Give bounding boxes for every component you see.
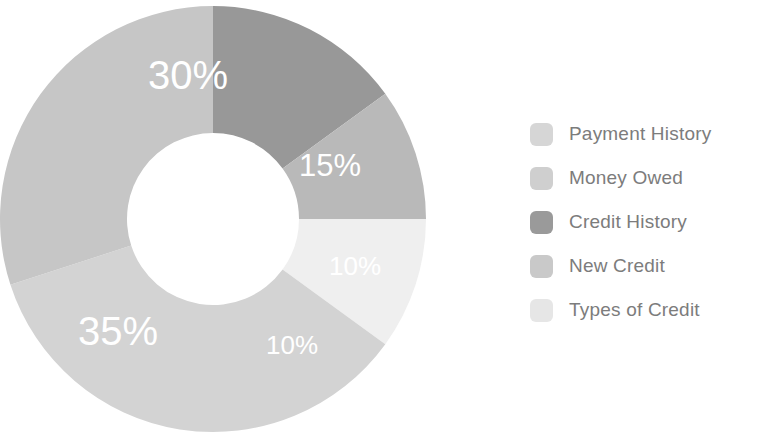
legend-item-label: Payment History xyxy=(569,123,711,145)
slice-percent-label: 10% xyxy=(266,330,318,360)
chart-legend: Payment HistoryMoney OwedCredit HistoryN… xyxy=(530,112,766,332)
legend-item-label: New Credit xyxy=(569,255,665,277)
legend-item-label: Types of Credit xyxy=(569,299,700,321)
legend-item[interactable]: Money Owed xyxy=(530,156,766,200)
legend-item[interactable]: New Credit xyxy=(530,244,766,288)
legend-item[interactable]: Types of Credit xyxy=(530,288,766,332)
legend-color-swatch xyxy=(530,167,553,190)
donut-chart-figure: 15%10%10%35%30% Payment HistoryMoney Owe… xyxy=(0,0,766,443)
legend-item-label: Money Owed xyxy=(569,167,683,189)
legend-color-swatch xyxy=(530,123,553,146)
donut-chart-area: 15%10%10%35%30% xyxy=(0,0,470,443)
slice-percent-label: 35% xyxy=(78,309,158,353)
slice-percent-label: 30% xyxy=(148,53,228,97)
donut-chart-svg: 15%10%10%35%30% xyxy=(0,0,470,443)
legend-item-label: Credit History xyxy=(569,211,687,233)
slice-percent-label: 10% xyxy=(329,251,381,281)
legend-item[interactable]: Payment History xyxy=(530,112,766,156)
donut-slice[interactable] xyxy=(0,6,213,285)
slice-percent-label: 15% xyxy=(299,148,361,183)
legend-item[interactable]: Credit History xyxy=(530,200,766,244)
legend-color-swatch xyxy=(530,255,553,278)
legend-color-swatch xyxy=(530,211,553,234)
legend-color-swatch xyxy=(530,299,553,322)
